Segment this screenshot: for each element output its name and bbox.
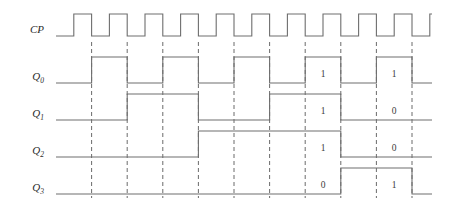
signal-wave-layer	[56, 14, 432, 194]
value-annotation: 1	[321, 143, 326, 153]
waveform-canvas: CPQ0Q1Q2Q3 11101001	[0, 0, 454, 209]
value-annotation: 1	[392, 69, 397, 79]
value-annotation: 1	[321, 69, 326, 79]
value-annotation: 0	[392, 143, 397, 153]
waveform-q1	[56, 94, 432, 120]
signal-label-q0: Q0	[32, 70, 44, 85]
waveform-q0	[56, 57, 432, 83]
value-annotation: 0	[321, 180, 326, 190]
signal-label-layer: CPQ0Q1Q2Q3	[30, 23, 44, 196]
signal-label-q3: Q3	[32, 181, 44, 196]
signal-label-q2: Q2	[32, 144, 44, 159]
value-annotation-layer: 11101001	[321, 69, 397, 190]
waveform-q2	[56, 131, 432, 157]
value-annotation: 1	[392, 180, 397, 190]
timing-diagram: CPQ0Q1Q2Q3 11101001	[0, 0, 454, 209]
value-annotation: 0	[392, 106, 397, 116]
value-annotation: 1	[321, 106, 326, 116]
signal-label-cp: CP	[30, 23, 44, 35]
signal-label-q1: Q1	[32, 107, 44, 122]
waveform-cp	[56, 14, 432, 36]
waveform-q3	[56, 168, 432, 194]
